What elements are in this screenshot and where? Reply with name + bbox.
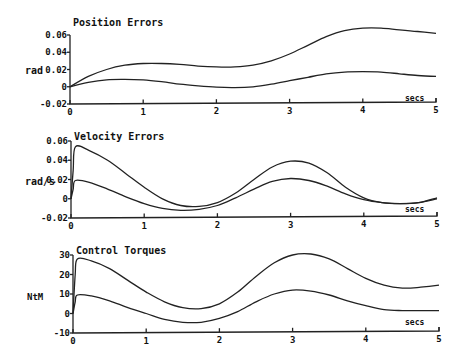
y-tick-label: -10	[54, 328, 70, 338]
y-tick-label: 0	[63, 194, 68, 204]
y-tick-label: 0.04	[45, 47, 67, 57]
y-tick-label: 0.02	[46, 175, 68, 185]
y-axis-label: NtM	[27, 292, 44, 302]
y-tick-label: 0	[62, 82, 67, 92]
panel-velocity-errors: Velocity Errors rad/s secs 0.060.040.020…	[25, 131, 440, 231]
y-tick-label: 0	[65, 309, 70, 319]
x-tick-label: 1	[141, 221, 146, 231]
y-tick-label: -0.02	[40, 99, 67, 109]
x-tick-label: 2	[214, 106, 219, 116]
x-tick-label: 0	[67, 107, 72, 117]
x-tick-label: 0	[70, 336, 75, 346]
x-tick-label: 5	[436, 334, 441, 344]
series-line-lower	[71, 178, 437, 210]
y-tick-label: 10	[59, 289, 70, 299]
x-tick-label: 4	[360, 105, 366, 115]
series-line-upper	[73, 254, 439, 314]
y-tick-label: 0.06	[45, 30, 67, 40]
panel-position-errors: Position Errors rad secs 0.060.040.020-0…	[25, 17, 439, 117]
x-tick-label: 3	[287, 106, 292, 116]
panel-title: Position Errors	[73, 17, 163, 28]
series-line-lower	[73, 290, 439, 323]
x-tick-label: 1	[140, 107, 145, 117]
series-line-lower	[70, 72, 436, 88]
x-tick-label: 4	[363, 334, 369, 344]
x-axis-label: secs	[405, 318, 424, 327]
x-tick-label: 2	[215, 220, 220, 230]
axes	[73, 255, 439, 333]
x-tick-label: 1	[143, 336, 148, 346]
chart-canvas: Position Errors rad secs 0.060.040.020-0…	[0, 0, 463, 363]
x-tick-label: 2	[217, 335, 222, 345]
y-tick-label: -0.02	[41, 213, 68, 223]
x-tick-label: 3	[288, 220, 293, 230]
x-tick-label: 4	[361, 219, 367, 229]
x-tick-label: 5	[434, 219, 439, 229]
panel-title: Velocity Errors	[74, 131, 164, 142]
series-line-upper	[71, 146, 437, 207]
y-tick-label: 0.02	[45, 65, 67, 75]
panel-control-torques: Control Torques NtM secs 3020100-1001234…	[27, 245, 442, 346]
x-tick-label: 3	[290, 335, 295, 345]
y-tick-label: 0.04	[46, 155, 68, 165]
series-line-upper	[70, 28, 436, 87]
y-tick-label: 20	[59, 270, 70, 280]
x-tick-label: 5	[433, 105, 438, 115]
y-axis-label: rad	[25, 65, 43, 76]
y-tick-label: 30	[59, 250, 70, 260]
y-tick-label: 0.06	[46, 136, 68, 146]
x-tick-label: 0	[68, 221, 73, 231]
axes	[70, 35, 436, 104]
panel-title: Control Torques	[76, 245, 166, 256]
x-axis-label: secs	[405, 205, 424, 214]
